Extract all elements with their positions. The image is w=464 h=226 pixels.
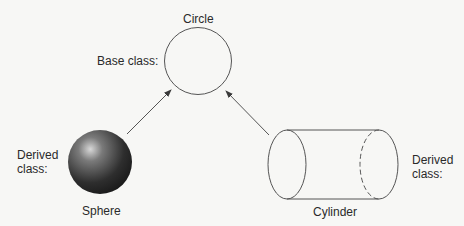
inheritance-diagram: Circle Base class: Derived class: Sphere… xyxy=(0,0,464,226)
circle-name-label: Circle xyxy=(183,12,214,26)
sphere-name-label: Sphere xyxy=(82,204,121,218)
circle-shape xyxy=(165,28,232,95)
cylinder-role-label: Derived class: xyxy=(412,153,462,181)
arrow-sphere-to-circle xyxy=(127,90,171,134)
sphere-role-label: Derived class: xyxy=(17,148,67,176)
circle-role-label: Base class: xyxy=(97,54,158,68)
cylinder-name-label: Cylinder xyxy=(313,205,357,219)
diagram-graphics xyxy=(0,0,464,226)
arrow-cylinder-to-circle xyxy=(226,91,269,135)
sphere-shape xyxy=(68,130,132,194)
cylinder-shape xyxy=(268,130,398,199)
